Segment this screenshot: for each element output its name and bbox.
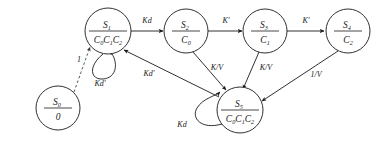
edge-s3-to-s4: K' <box>287 16 324 31</box>
edge-label-s5-self-loop: Kd <box>176 120 187 129</box>
node-s1-denominator: C0C1C2 <box>94 35 122 46</box>
edge-s0-to-s1: 1 <box>74 47 90 92</box>
edge-s3-to-s5: K/V <box>243 52 273 89</box>
edge-label-s2-s3: K' <box>221 16 229 25</box>
edge-label-s0-s1: 1 <box>77 55 81 64</box>
edge-s2-to-s3: K' <box>208 16 242 31</box>
edge-label-s3-s5: K/V <box>259 63 274 72</box>
edge-label-s1-s2: Kd <box>141 16 152 25</box>
node-s1[interactable]: S1 C0C1C2 <box>85 8 131 54</box>
node-s0-denominator: 0 <box>56 112 61 122</box>
edge-label-s5-s1: Kd' <box>142 69 154 78</box>
edge-s5-self-loop: Kd <box>176 92 222 129</box>
edge-label-s2-s5: K/V <box>210 63 225 72</box>
state-diagram-canvas: 1 Kd K' K' K/V K/V 1/V <box>0 0 383 142</box>
node-s0[interactable]: S0 0 <box>36 86 80 130</box>
edge-label-s4-s5: 1/V <box>310 70 322 79</box>
node-s3[interactable]: S3 C1 <box>243 9 287 53</box>
node-s2[interactable]: S2 C0 <box>164 9 208 53</box>
state-diagram-container: 1 Kd K' K' K/V K/V 1/V <box>0 0 383 142</box>
edge-s5-to-s1: Kd' <box>124 50 219 97</box>
node-s4[interactable]: S4 C2 <box>326 9 370 53</box>
edge-label-s1-self-loop: Kd' <box>93 79 105 88</box>
edge-s1-to-s2: Kd <box>131 16 163 31</box>
node-s5-denominator: C0C1C2 <box>226 114 254 125</box>
edge-s2-to-s5: K/V <box>193 52 226 90</box>
node-s5[interactable]: S5 C0C1C2 <box>217 87 263 133</box>
edge-label-s3-s4: K' <box>301 16 309 25</box>
edge-s1-self-loop: Kd' <box>92 51 115 88</box>
edge-s4-to-s5: 1/V <box>262 51 338 101</box>
